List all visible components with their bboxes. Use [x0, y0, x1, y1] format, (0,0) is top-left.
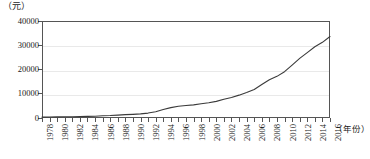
- x-axis-tick: [186, 118, 187, 122]
- x-axis-tick: [72, 118, 73, 122]
- x-axis-tick-label: 1998: [198, 124, 207, 141]
- x-axis-tick: [201, 118, 202, 122]
- x-axis-tick-label: 1994: [167, 124, 176, 141]
- x-axis-tick: [156, 118, 157, 122]
- x-axis-tick-label: 1986: [107, 124, 116, 141]
- data-series-line: [42, 21, 330, 118]
- y-axis-tick-label: 20000: [0, 65, 39, 74]
- x-axis-tick-label: 2010: [289, 124, 298, 141]
- x-axis-tick-label: 2014: [319, 124, 328, 141]
- x-axis-tick: [87, 118, 88, 122]
- x-axis-tick: [209, 118, 210, 122]
- x-axis-tick-label: 1988: [122, 124, 131, 141]
- x-axis-tick: [95, 118, 96, 122]
- y-axis-tick-label: 30000: [0, 41, 39, 50]
- x-axis-tick-label: 1996: [182, 124, 191, 141]
- x-axis-tick-label: 2008: [273, 124, 282, 141]
- x-axis-tick: [125, 118, 126, 122]
- x-axis-tick: [103, 118, 104, 122]
- x-axis-tick: [57, 118, 58, 122]
- x-axis-tick: [178, 118, 179, 122]
- x-axis-tick-label: 2006: [258, 124, 267, 141]
- x-axis-tick-label: 1982: [76, 124, 85, 141]
- y-axis-unit-label: （元）: [3, 1, 30, 12]
- x-axis-tick: [300, 118, 301, 122]
- x-axis-tick: [65, 118, 66, 122]
- x-axis-tick: [42, 118, 43, 122]
- x-axis-tick: [163, 118, 164, 122]
- x-axis-title: （年份）: [334, 124, 370, 134]
- x-axis-tick: [118, 118, 119, 122]
- y-axis-tick-label: 10000: [0, 89, 39, 98]
- x-axis-tick: [322, 118, 323, 122]
- x-axis-tick-label: 2004: [243, 124, 252, 141]
- y-axis-tick-label: 40000: [0, 17, 39, 26]
- x-axis-tick: [247, 118, 248, 122]
- x-axis-tick-label: 1990: [137, 124, 146, 141]
- x-axis-tick: [285, 118, 286, 122]
- x-axis-tick: [277, 118, 278, 122]
- x-axis-tick-label: 1992: [152, 124, 161, 141]
- x-axis-tick: [216, 118, 217, 122]
- x-axis-tick-label: 1984: [91, 124, 100, 141]
- x-axis-tick: [133, 118, 134, 122]
- x-axis-tick: [262, 118, 263, 122]
- y-axis-tick-label: 0: [0, 114, 39, 123]
- x-axis-tick-label: 1980: [61, 124, 70, 141]
- x-axis-tick: [171, 118, 172, 122]
- line-chart: （元） 010000200003000040000 19781980198219…: [0, 0, 370, 159]
- x-axis-tick: [80, 118, 81, 122]
- x-axis-tick: [315, 118, 316, 122]
- x-axis-tick: [50, 118, 51, 122]
- x-axis-tick: [269, 118, 270, 122]
- x-axis-tick-label: 2000: [213, 124, 222, 141]
- x-axis-tick: [231, 118, 232, 122]
- x-axis-tick-label: 1978: [46, 124, 55, 141]
- x-axis-tick: [330, 118, 331, 122]
- x-axis-tick-label: 2012: [304, 124, 313, 141]
- x-axis-tick: [141, 118, 142, 122]
- x-axis-tick: [239, 118, 240, 122]
- x-axis-tick: [307, 118, 308, 122]
- x-axis-tick: [148, 118, 149, 122]
- x-axis-tick: [292, 118, 293, 122]
- x-axis-tick-label: 2002: [228, 124, 237, 141]
- x-axis-tick: [194, 118, 195, 122]
- x-axis-tick: [254, 118, 255, 122]
- x-axis-tick: [110, 118, 111, 122]
- x-axis-tick: [224, 118, 225, 122]
